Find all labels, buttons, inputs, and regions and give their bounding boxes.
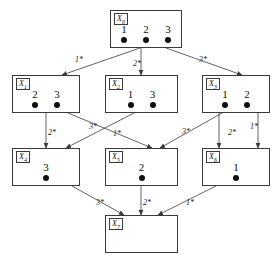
edge-label-x1-x4: 2* xyxy=(48,129,56,137)
edge-X1-X5 xyxy=(68,113,152,148)
element-dot xyxy=(54,102,60,108)
element-dot xyxy=(43,175,49,181)
node-x6[interactable]: X61 xyxy=(202,148,270,186)
node-elements: 3 xyxy=(13,162,79,181)
node-x2[interactable]: X213 xyxy=(105,75,178,113)
node-label-subscript: 7 xyxy=(117,224,120,230)
node-x1[interactable]: X123 xyxy=(12,75,80,113)
node-elements: 123 xyxy=(111,24,181,43)
element-item: 2 xyxy=(241,89,253,108)
edge-label-x6-x7: 1* xyxy=(186,199,194,207)
element-number: 2 xyxy=(244,89,250,100)
element-dot xyxy=(32,102,38,108)
edge-label-x0-x2: 2* xyxy=(133,60,141,68)
element-dot xyxy=(233,175,239,181)
element-item: 1 xyxy=(118,24,130,43)
element-item: 2 xyxy=(136,162,148,181)
element-number: 3 xyxy=(54,89,60,100)
edge-label-x3-x6: 1* xyxy=(250,123,258,131)
node-elements: 23 xyxy=(13,89,79,108)
element-dot xyxy=(139,175,145,181)
element-item: 2 xyxy=(140,24,152,43)
node-x4[interactable]: X43 xyxy=(12,148,80,186)
node-label-x7: X7 xyxy=(109,218,123,230)
node-elements: 13 xyxy=(106,89,177,108)
edge-X3-X5 xyxy=(160,113,222,148)
edge-label-x0-x3: 3* xyxy=(199,56,207,64)
element-item: 1 xyxy=(219,89,231,108)
edge-label-x2-x6: 2* xyxy=(228,129,236,137)
element-number: 2 xyxy=(32,89,38,100)
lattice-diagram: X0123X123X213X312X43X52X61X7 1*2*3*2*3*1… xyxy=(0,0,280,267)
element-dot xyxy=(128,102,134,108)
edge-label-x3-x5: 3* xyxy=(182,128,190,136)
edge-X2-X4 xyxy=(66,113,134,148)
edge-label-x4-x7: 3* xyxy=(96,199,104,207)
node-elements: 1 xyxy=(203,162,269,181)
element-number: 1 xyxy=(222,89,228,100)
element-dot xyxy=(150,102,156,108)
node-x7[interactable]: X7 xyxy=(105,215,178,253)
element-dot xyxy=(165,37,171,43)
element-number: 2 xyxy=(139,162,145,173)
element-number: 3 xyxy=(150,89,156,100)
edge-lines xyxy=(46,48,258,215)
element-number: 3 xyxy=(43,162,49,173)
element-dot xyxy=(244,102,250,108)
edge-label-x0-x1: 1* xyxy=(75,56,83,64)
element-dot xyxy=(143,37,149,43)
edge-label-x1-x5: 3* xyxy=(89,123,97,131)
edge-label-x2-x4: 1* xyxy=(113,130,121,138)
element-item: 3 xyxy=(40,162,52,181)
element-item: 1 xyxy=(125,89,137,108)
element-item: 3 xyxy=(162,24,174,43)
element-number: 3 xyxy=(165,24,171,35)
node-elements: 12 xyxy=(203,89,269,108)
element-number: 1 xyxy=(233,162,239,173)
element-dot xyxy=(222,102,228,108)
edge-label-x5-x7: 2* xyxy=(143,199,151,207)
element-item: 1 xyxy=(230,162,242,181)
element-item: 2 xyxy=(29,89,41,108)
node-x0[interactable]: X0123 xyxy=(110,10,182,48)
element-item: 3 xyxy=(147,89,159,108)
edge-X0-X1 xyxy=(62,48,140,75)
node-x3[interactable]: X312 xyxy=(202,75,270,113)
element-item: 3 xyxy=(51,89,63,108)
element-number: 2 xyxy=(143,24,149,35)
node-elements: 2 xyxy=(106,162,177,181)
node-x5[interactable]: X52 xyxy=(105,148,178,186)
element-dot xyxy=(121,37,127,43)
element-number: 1 xyxy=(128,89,134,100)
element-number: 1 xyxy=(121,24,127,35)
